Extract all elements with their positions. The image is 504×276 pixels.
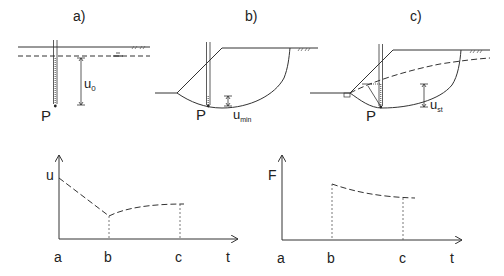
tick-b: b <box>104 249 112 265</box>
u-curve-drop <box>59 178 109 216</box>
phreatic-line <box>350 58 490 93</box>
y-axis-label: u <box>46 167 54 183</box>
factor-of-safety-graph: F t a b c <box>268 155 462 266</box>
pore-pressure-graph: u t a b c <box>46 155 238 265</box>
x-axis-label: t <box>450 250 454 266</box>
u0-label: u0 <box>84 76 96 93</box>
point-p-label: P <box>366 107 376 124</box>
diagram-canvas: a) P u0 b) <box>0 0 504 276</box>
panel-b-label: b) <box>245 8 257 24</box>
piezometer <box>54 40 58 107</box>
tick-b: b <box>327 250 335 266</box>
y-axis-label: F <box>268 167 277 183</box>
umin-label: umin <box>233 107 252 123</box>
equipotential-lines <box>362 84 381 107</box>
panel-c-label: c) <box>410 8 422 24</box>
slip-surface <box>350 50 461 108</box>
panel-c: c) P <box>310 8 490 124</box>
panel-b: b) P umin <box>155 8 318 123</box>
umin-dimension-arrow <box>224 96 232 106</box>
tick-a: a <box>277 250 285 266</box>
water-table-icon <box>113 53 123 56</box>
ust-dimension-arrow <box>420 84 428 107</box>
tick-a: a <box>54 249 62 265</box>
point-p-label: P <box>41 107 51 124</box>
slope-profile <box>155 48 318 93</box>
piezometer <box>207 42 211 107</box>
panel-a-label: a) <box>73 8 85 24</box>
x-axis-label: t <box>226 249 230 265</box>
tick-c: c <box>399 250 406 266</box>
u-curve-recovery <box>109 204 184 216</box>
point-p-label: P <box>196 106 206 123</box>
seepage-symbol-icon <box>344 93 350 97</box>
f-curve <box>332 184 415 198</box>
slip-surface <box>177 48 290 108</box>
ust-label: ust <box>430 97 443 113</box>
piezometer <box>379 44 383 108</box>
tick-c: c <box>175 249 182 265</box>
panel-a: a) P u0 <box>18 8 150 124</box>
slope-profile <box>310 50 490 93</box>
